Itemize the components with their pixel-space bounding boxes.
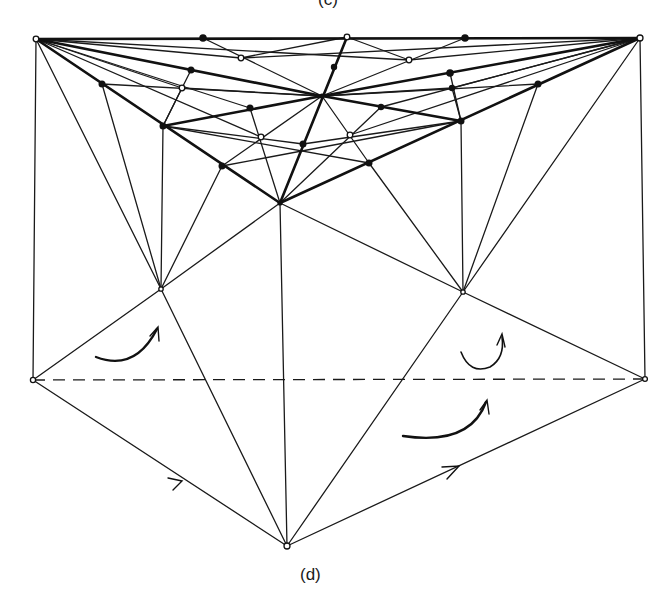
- curved-arrow-icon: [96, 329, 157, 361]
- edge-arrow-icon: [168, 478, 182, 490]
- filled-nodes: [99, 34, 542, 205]
- triangulation-diagram: [0, 0, 668, 607]
- curved-arrow-icon: [403, 402, 486, 438]
- rotation-arrows: [96, 327, 505, 438]
- caption-d: (d): [300, 565, 321, 585]
- thin-edges: [33, 37, 645, 546]
- dashed-fold-line: [33, 379, 645, 380]
- curved-arrow-icon: [461, 337, 503, 369]
